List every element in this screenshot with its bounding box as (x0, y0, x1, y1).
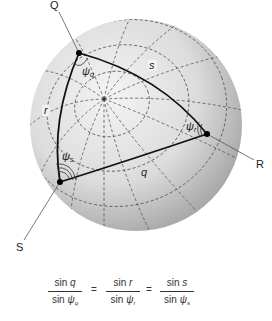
vertex-q-label: Q (50, 0, 59, 11)
side-q-label: q (141, 166, 148, 178)
fraction-bar (48, 291, 82, 292)
sphere (30, 19, 242, 231)
equals-sign-2: = (146, 284, 152, 295)
fraction-r: sin r sin ψr (106, 276, 140, 310)
pole-point (102, 97, 106, 101)
law-of-sines-formula: sin q sin ψq = sin r sin ψr = sin s sin … (0, 268, 272, 318)
fraction-bar (160, 291, 194, 292)
vertex-q-point (76, 50, 82, 56)
equals-sign-1: = (91, 284, 97, 295)
vertex-s-point (57, 179, 63, 185)
denominator-r: sin ψr (106, 293, 140, 310)
numerator-s: sin s (160, 276, 194, 290)
denominator-q: sin ψq (48, 293, 82, 310)
vertex-s-label: S (16, 241, 23, 253)
numerator-r: sin r (106, 276, 140, 290)
side-s-label: s (149, 59, 155, 71)
leader-s (24, 182, 60, 240)
vertex-r-point (204, 131, 210, 137)
fraction-bar (106, 291, 140, 292)
fraction-s: sin s sin ψs (160, 276, 194, 310)
fraction-q: sin q sin ψq (48, 276, 82, 310)
numerator-q: sin q (48, 276, 82, 290)
vertex-r-label: R (256, 158, 264, 170)
denominator-s: sin ψs (160, 293, 194, 310)
